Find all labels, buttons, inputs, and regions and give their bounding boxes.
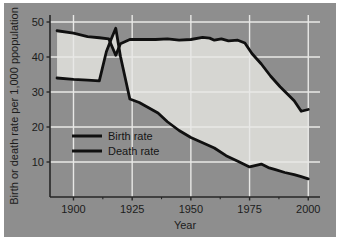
legend-label: Death rate (108, 145, 159, 157)
x-tick-label: 1900 (61, 203, 85, 215)
y-tick-label: 50 (32, 16, 44, 28)
figure-panel: 102030405019001925195019752000 Birth rat… (4, 3, 336, 237)
x-axis-title: Year (174, 219, 197, 231)
x-tick-label: 2000 (296, 203, 320, 215)
x-tick-label: 1950 (179, 203, 203, 215)
x-tick-label: 1925 (120, 203, 144, 215)
y-axis-title: Birth or death rate per 1,000 ppopulatio… (8, 7, 20, 205)
legend-label: Birth rate (108, 130, 153, 142)
y-tick-label: 40 (32, 51, 44, 63)
chart-screenshot: 102030405019001925195019752000 Birth rat… (0, 0, 340, 240)
y-tick-label: 20 (32, 121, 44, 133)
y-tick-label: 10 (32, 156, 44, 168)
y-tick-label: 30 (32, 86, 44, 98)
line-chart: 102030405019001925195019752000 Birth rat… (4, 3, 336, 237)
x-tick-label: 1975 (237, 203, 261, 215)
